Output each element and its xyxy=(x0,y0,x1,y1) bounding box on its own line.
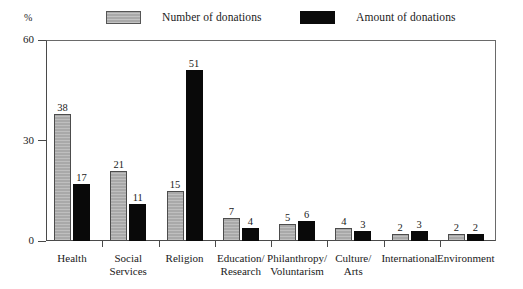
bar-value-label: 4 xyxy=(248,216,253,227)
bar-amount-of-donations: 2 xyxy=(467,234,484,241)
bar-amount-of-donations: 17 xyxy=(73,184,90,241)
bar-number-of-donations: 7 xyxy=(223,218,240,241)
bar-number-of-donations: 15 xyxy=(167,191,184,241)
y-axis-tick xyxy=(38,40,46,41)
x-axis-label-line: Environment xyxy=(437,252,494,265)
x-axis-label-line: Social xyxy=(110,252,147,265)
bar-group: 56 xyxy=(271,40,327,241)
x-axis-label-line: International xyxy=(381,252,437,265)
x-axis-label: SocialServices xyxy=(110,252,147,278)
x-axis-label-line: Arts xyxy=(335,265,371,278)
legend-label-amount-of-donations: Amount of donations xyxy=(356,11,456,24)
x-axis-label: Education/Research xyxy=(217,252,265,278)
x-axis-tick xyxy=(102,241,103,247)
x-axis-label-line: Education/ xyxy=(217,252,265,265)
bar-value-label: 2 xyxy=(397,222,402,233)
bar-value-label: 2 xyxy=(473,222,478,233)
x-axis-label-line: Research xyxy=(217,265,265,278)
x-axis-label-line: Health xyxy=(57,252,86,265)
chart-legend: Number of donations Amount of donations xyxy=(0,11,523,31)
bar-amount-of-donations: 3 xyxy=(411,231,428,241)
x-axis-label-line: Philanthropy/ xyxy=(267,252,327,265)
x-axis-label: International xyxy=(381,252,437,265)
bar-value-label: 2 xyxy=(454,222,459,233)
bar-group: 22 xyxy=(440,40,496,241)
bar-amount-of-donations: 6 xyxy=(298,221,315,241)
bar-group: 2111 xyxy=(102,40,158,241)
bar-value-label: 3 xyxy=(360,219,365,230)
x-axis-label: Health xyxy=(57,252,86,265)
bar-value-label: 38 xyxy=(57,102,68,113)
x-axis-tick xyxy=(215,241,216,247)
legend-item-number-of-donations: Number of donations xyxy=(106,11,262,24)
bar-group: 1551 xyxy=(159,40,215,241)
legend-item-amount-of-donations: Amount of donations xyxy=(300,11,456,24)
bar-number-of-donations: 4 xyxy=(335,228,352,241)
y-axis-tick-label: 60 xyxy=(10,34,34,45)
x-axis-label: Religion xyxy=(166,252,204,265)
bar-value-label: 7 xyxy=(229,206,234,217)
bar-amount-of-donations: 3 xyxy=(354,231,371,241)
y-axis-tick xyxy=(38,140,46,141)
bar-number-of-donations: 2 xyxy=(392,234,409,241)
x-axis-label-line: Voluntarism xyxy=(267,265,327,278)
bar-value-label: 3 xyxy=(416,219,421,230)
x-axis-label: Environment xyxy=(437,252,494,265)
bar-group: 3817 xyxy=(46,40,102,241)
bar-number-of-donations: 38 xyxy=(54,114,71,241)
legend-swatch-black xyxy=(300,11,335,24)
bar-number-of-donations: 21 xyxy=(110,171,127,241)
bar-value-label: 51 xyxy=(189,58,200,69)
bar-group: 23 xyxy=(384,40,440,241)
x-axis-tick xyxy=(384,241,385,247)
bar-value-label: 11 xyxy=(133,192,143,203)
bar-number-of-donations: 2 xyxy=(448,234,465,241)
bar-amount-of-donations: 11 xyxy=(129,204,146,241)
x-axis-label: Philanthropy/Voluntarism xyxy=(267,252,327,278)
y-axis-tick-label: 0 xyxy=(10,235,34,246)
y-axis-tick xyxy=(38,241,46,242)
x-axis-tick xyxy=(271,241,272,247)
bar-value-label: 17 xyxy=(76,172,87,183)
bar-value-label: 15 xyxy=(170,179,181,190)
bar-amount-of-donations: 4 xyxy=(242,228,259,241)
x-axis-label: Culture/Arts xyxy=(335,252,371,278)
x-axis-tick xyxy=(440,241,441,247)
bar-amount-of-donations: 51 xyxy=(186,70,203,241)
x-axis-label-line: Services xyxy=(110,265,147,278)
bars-layer: 3817211115517456432322 xyxy=(46,40,496,241)
x-axis-tick xyxy=(327,241,328,247)
bar-value-label: 4 xyxy=(341,216,346,227)
x-axis-label-line: Religion xyxy=(166,252,204,265)
legend-label-number-of-donations: Number of donations xyxy=(162,11,262,24)
bar-value-label: 5 xyxy=(285,212,290,223)
y-axis-tick-label: 30 xyxy=(10,135,34,146)
bar-group: 74 xyxy=(215,40,271,241)
bar-value-label: 21 xyxy=(114,159,125,170)
y-axis-unit-label: % xyxy=(24,12,32,23)
bar-group: 43 xyxy=(327,40,383,241)
bar-number-of-donations: 5 xyxy=(279,224,296,241)
legend-swatch-gray xyxy=(106,11,141,24)
grouped-bar-chart: Number of donations Amount of donations … xyxy=(0,0,523,289)
x-axis-tick xyxy=(159,241,160,247)
bar-value-label: 6 xyxy=(304,209,309,220)
x-axis-label-line: Culture/ xyxy=(335,252,371,265)
